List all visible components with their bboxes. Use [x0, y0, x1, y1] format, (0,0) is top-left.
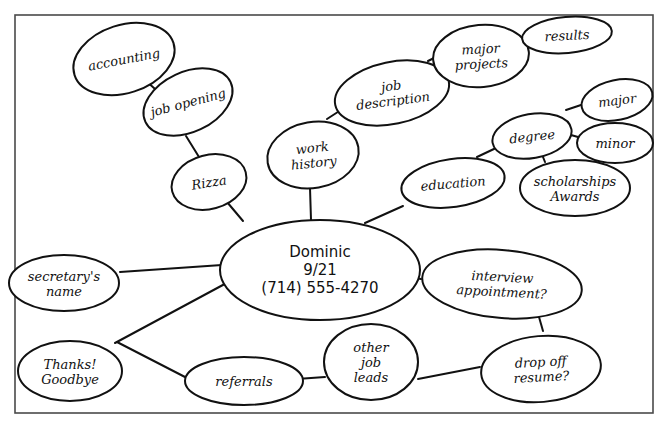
- node-referrals: referrals: [185, 357, 303, 405]
- node-results: results: [521, 13, 614, 57]
- nodes-layer: accountingjob openingRizzaworkhistoryjob…: [9, 11, 656, 408]
- node-thanks-goodbye: Thanks!Goodbye: [18, 341, 122, 401]
- node-work-history: workhistory: [262, 115, 364, 196]
- node-label-line: projects: [454, 55, 508, 73]
- node-label-line: Thanks!: [44, 357, 97, 372]
- node-label-line: scholarships: [534, 174, 617, 189]
- edge-interview-appointment-to-drop-off-resume: [539, 317, 543, 331]
- node-label-line: referrals: [215, 374, 273, 389]
- mind-map-canvas: accountingjob openingRizzaworkhistoryjob…: [0, 0, 666, 428]
- node-label: minor: [596, 136, 636, 151]
- edge-degree-to-scholarships-awards: [543, 157, 545, 162]
- node-label-line: minor: [596, 136, 636, 151]
- node-label-line: Goodbye: [41, 372, 99, 387]
- node-rizza: Rizza: [165, 146, 252, 218]
- edge-work-history-to-dominic: [310, 188, 311, 220]
- node-label-line: job: [358, 355, 381, 370]
- node-label-line: (714) 555-4270: [261, 279, 378, 297]
- node-label: Thanks!Goodbye: [41, 357, 99, 387]
- node-minor: minor: [577, 123, 653, 163]
- node-label-line: Dominic: [289, 243, 350, 261]
- node-major: major: [578, 73, 657, 127]
- edge-dominic-to-secretarys-name: [120, 265, 222, 272]
- node-label-line: name: [46, 284, 82, 299]
- node-dominic: Dominic9/21(714) 555-4270: [220, 220, 420, 320]
- node-education: education: [398, 152, 508, 214]
- node-interview-appointment: interviewappointment?: [419, 243, 584, 325]
- node-label: results: [544, 27, 590, 44]
- edge-rizza-to-dominic: [227, 202, 243, 221]
- node-label-line: results: [544, 27, 590, 44]
- node-label: referrals: [215, 374, 273, 389]
- edge-dominic-to-education: [365, 206, 403, 223]
- node-label: drop offresume?: [512, 353, 570, 386]
- node-label-line: 9/21: [303, 261, 337, 279]
- edge-other-job-leads-to-drop-off-resume: [418, 367, 480, 379]
- edge-thanks-goodbye-to-referrals: [117, 342, 185, 377]
- node-label-line: leads: [354, 370, 389, 385]
- node-drop-off-resume: drop offresume?: [478, 331, 603, 407]
- node-other-job-leads: otherjobleads: [324, 324, 418, 400]
- node-label-line: other: [353, 340, 389, 355]
- edge-education-to-degree: [477, 148, 496, 157]
- node-label-line: resume?: [513, 368, 571, 386]
- node-label-line: secretary's: [28, 269, 101, 284]
- node-scholarships-awards: scholarshipsAwards: [520, 160, 630, 216]
- node-label-line: Awards: [550, 189, 600, 204]
- node-degree: degree: [489, 107, 575, 164]
- edge-dominic-to-thanks-goodbye: [115, 279, 234, 343]
- edge-degree-to-major: [566, 105, 581, 110]
- edge-job-opening-to-rizza: [186, 136, 199, 157]
- node-secretarys-name: secretary'sname: [9, 255, 119, 311]
